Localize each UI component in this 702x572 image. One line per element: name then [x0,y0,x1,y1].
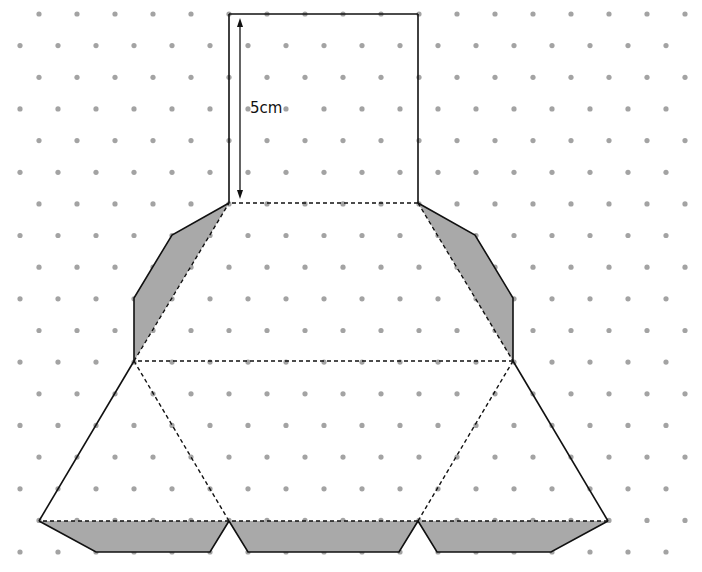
grid-dot [663,43,668,48]
grid-dot [264,201,269,206]
grid-dot [473,170,478,175]
grid-dot [340,328,345,333]
isometric-dot-grid [17,11,687,554]
grid-dot [150,455,155,460]
grid-dot [473,360,478,365]
grid-dot [55,549,60,554]
grid-dot [93,360,98,365]
grid-dot [245,170,250,175]
grid-dot [55,106,60,111]
grid-dot [511,170,516,175]
grid-dot [378,328,383,333]
grid-dot [454,11,459,16]
grid-dot [378,138,383,143]
grid-dot [644,328,649,333]
grid-dot [473,486,478,491]
grid-dot [492,138,497,143]
grid-dot [207,170,212,175]
grid-dot [644,201,649,206]
grid-dot [17,233,22,238]
bottom-right-triangle [418,361,608,521]
grid-dot [112,138,117,143]
grid-dot [245,43,250,48]
grid-dot [36,265,41,270]
grid-dot [321,423,326,428]
grid-dot [36,455,41,460]
grid-dot [112,75,117,80]
grid-dot [511,423,516,428]
grid-dot [587,423,592,428]
grid-dot [302,328,307,333]
grid-dot [188,11,193,16]
grid-dot [397,360,402,365]
grid-dot [663,170,668,175]
grid-dot [283,170,288,175]
grid-dot [245,360,250,365]
grid-dot [283,423,288,428]
grid-dot [435,360,440,365]
bottom-middle-flap [229,521,418,552]
grid-dot [283,106,288,111]
dimension-marker: 5cm [237,18,282,199]
grid-dot [188,201,193,206]
grid-dot [131,106,136,111]
grid-dot [359,233,364,238]
grid-dot [131,233,136,238]
grid-dot [492,455,497,460]
grid-dot [74,75,79,80]
grid-dot [511,106,516,111]
grid-dot [625,170,630,175]
grid-dot [359,106,364,111]
grid-dot [169,43,174,48]
grid-dot [625,106,630,111]
grid-dot [36,391,41,396]
grid-dot [625,233,630,238]
grid-dot [169,360,174,365]
grid-dot [264,75,269,80]
grid-dot [283,360,288,365]
dimension-label: 5cm [250,99,282,117]
grid-dot [245,233,250,238]
grid-dot [587,360,592,365]
grid-dot [606,75,611,80]
grid-dot [416,75,421,80]
grid-dot [245,296,250,301]
grid-dot [226,391,231,396]
grid-dot [511,486,516,491]
grid-dot [416,265,421,270]
grid-dot [226,328,231,333]
grid-dot [321,106,326,111]
grid-dot [587,549,592,554]
grid-dot [17,296,22,301]
grid-dot [93,296,98,301]
grid-dot [150,75,155,80]
grid-dot [454,391,459,396]
grid-dot [74,11,79,16]
grid-dot [17,43,22,48]
grid-dot [397,106,402,111]
grid-dot [625,486,630,491]
grid-dot [549,360,554,365]
grid-dot [587,43,592,48]
grid-dot [340,138,345,143]
grid-dot [188,328,193,333]
grid-dot [530,11,535,16]
grid-dot [131,486,136,491]
grid-dot [340,265,345,270]
grid-dot [264,138,269,143]
grid-dot [454,201,459,206]
grid-dot [606,138,611,143]
net-diagram: 5cm [0,0,702,572]
grid-dot [112,201,117,206]
grid-dot [188,391,193,396]
grid-dot [511,233,516,238]
grid-dot [549,106,554,111]
grid-dot [435,296,440,301]
grid-dot [549,43,554,48]
grid-dot [55,43,60,48]
grid-dot [245,423,250,428]
grid-dot [283,233,288,238]
grid-dot [17,549,22,554]
grid-dot [264,265,269,270]
grid-dot [568,138,573,143]
